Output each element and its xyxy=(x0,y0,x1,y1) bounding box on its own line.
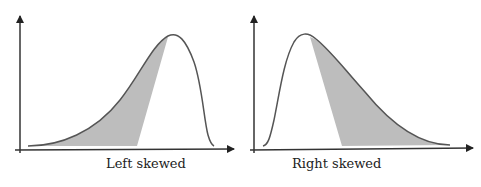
left-x-axis xyxy=(15,149,234,150)
left-skewed-label: Left skewed xyxy=(106,156,186,171)
right-x-axis xyxy=(250,148,473,150)
left-skewed-panel xyxy=(15,16,234,153)
skewness-diagram xyxy=(0,0,481,187)
right-skewed-panel xyxy=(250,16,473,153)
left-shaded-area xyxy=(28,37,168,146)
right-skewed-label: Right skewed xyxy=(292,156,381,171)
